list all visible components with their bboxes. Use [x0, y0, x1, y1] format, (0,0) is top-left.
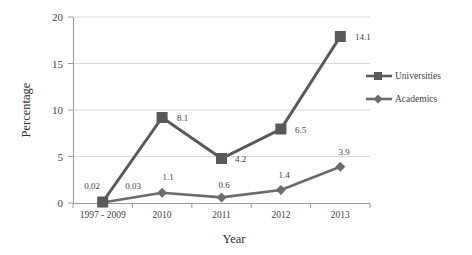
legend-label-universities: Universities	[395, 71, 441, 81]
y-tick-label-20: 20	[52, 11, 64, 23]
academics-data-label-1: 1.1	[162, 172, 173, 182]
academics-data-label-3: 1.4	[278, 170, 290, 180]
universities-data-label-0: 0.02	[84, 181, 100, 191]
universities-data-label-3: 6.5	[295, 125, 307, 135]
y-tick-label-10: 10	[52, 104, 64, 116]
gridlines	[73, 17, 370, 157]
y-tick-label-5: 5	[58, 151, 64, 163]
academics-point-1	[157, 188, 167, 198]
universities-point-1	[157, 112, 168, 123]
x-tick-label-0: 1997 - 2009	[80, 210, 126, 220]
x-axis-title: Year	[222, 232, 246, 246]
y-tick-label-15: 15	[52, 58, 64, 70]
square-marker-icon	[374, 72, 382, 80]
y-tick-label-0: 0	[58, 197, 64, 209]
universities-data-label-4: 14.1	[355, 32, 371, 42]
academics-point-2	[217, 192, 227, 202]
x-tick-label-4: 2013	[331, 210, 350, 220]
legend: Universities Academics	[366, 71, 441, 104]
universities-point-4	[335, 31, 346, 42]
universities-point-3	[275, 124, 286, 135]
universities-point-2	[216, 153, 227, 164]
chart-svg: 20 15 10 5 0 1997 - 2009 2010 2011 2012 …	[0, 0, 472, 255]
universities-data-label-2: 4.2	[235, 154, 246, 164]
academics-point-3	[276, 185, 286, 195]
academics-data-label-4: 3.9	[338, 147, 350, 157]
legend-entry-universities[interactable]: Universities	[366, 71, 441, 81]
academics-data-label-2: 0.6	[218, 180, 230, 190]
academics-point-4	[335, 162, 345, 172]
x-tick-label-1: 2010	[153, 210, 172, 220]
universities-line	[103, 37, 341, 203]
academics-data-label-0: 0.03	[125, 181, 141, 191]
x-axis	[73, 203, 370, 208]
legend-entry-academics[interactable]: Academics	[366, 94, 438, 104]
y-axis	[68, 17, 74, 203]
x-tick-label-2: 2011	[212, 210, 231, 220]
legend-label-academics: Academics	[395, 94, 438, 104]
universities-point-0	[97, 197, 108, 208]
universities-data-label-1: 8.1	[177, 113, 188, 123]
y-axis-title: Percentage	[19, 82, 33, 137]
diamond-marker-icon	[374, 95, 383, 104]
line-chart: 20 15 10 5 0 1997 - 2009 2010 2011 2012 …	[0, 0, 472, 255]
x-tick-label-3: 2012	[271, 210, 290, 220]
